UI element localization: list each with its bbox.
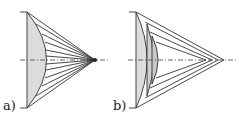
panel-a-label: a): [3, 98, 16, 113]
panel-b-label: b): [113, 98, 126, 113]
panel-b: [128, 12, 238, 108]
panel-a: [20, 12, 108, 108]
